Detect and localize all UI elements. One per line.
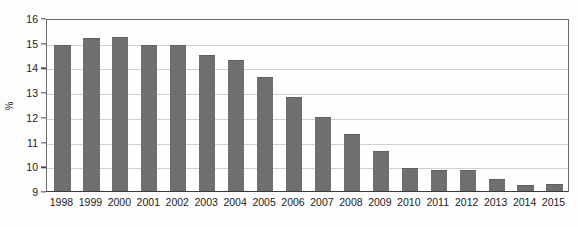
x-tick-label-2000: 2000 — [105, 196, 134, 208]
bar-2013 — [489, 179, 505, 191]
bar-2005 — [257, 77, 273, 191]
y-tick-label-15: 15 — [12, 38, 38, 50]
x-tick-label-2014: 2014 — [510, 196, 539, 208]
x-tick-label-2005: 2005 — [250, 196, 279, 208]
x-tick-label-2006: 2006 — [279, 196, 308, 208]
bar-2009 — [373, 151, 389, 191]
plot-area — [46, 19, 569, 192]
y-tick-label-11: 11 — [12, 137, 38, 149]
bar-2006 — [286, 97, 302, 191]
bar-2001 — [141, 45, 157, 191]
x-tick-label-1998: 1998 — [47, 196, 76, 208]
bar-2003 — [199, 55, 215, 191]
x-tick-label-2003: 2003 — [192, 196, 221, 208]
y-axis-title: % — [0, 98, 20, 114]
x-tick-label-2001: 2001 — [134, 196, 163, 208]
bar-2008 — [344, 134, 360, 191]
x-tick-label-2012: 2012 — [452, 196, 481, 208]
x-tick-label-2007: 2007 — [308, 196, 337, 208]
y-tick-label-9: 9 — [12, 186, 38, 198]
bar-chart-figure: % 161514131211109 1998199920002001200220… — [0, 0, 578, 227]
x-tick-label-1999: 1999 — [76, 196, 105, 208]
x-tick-label-2015: 2015 — [539, 196, 568, 208]
bar-2004 — [228, 60, 244, 191]
x-tick-label-2004: 2004 — [221, 196, 250, 208]
bar-1998 — [54, 45, 70, 191]
bar-2011 — [431, 170, 447, 191]
y-tick-label-10: 10 — [12, 161, 38, 173]
bar-2010 — [402, 168, 418, 191]
bar-2007 — [315, 117, 331, 191]
bar-2012 — [460, 170, 476, 191]
y-tick-label-14: 14 — [12, 62, 38, 74]
x-tick-label-2010: 2010 — [394, 196, 423, 208]
x-tick-label-2002: 2002 — [163, 196, 192, 208]
bar-1999 — [83, 38, 99, 191]
bar-2002 — [170, 45, 186, 191]
x-tick-label-2008: 2008 — [336, 196, 365, 208]
bar-2000 — [112, 37, 128, 191]
bar-2015 — [546, 184, 562, 191]
bar-2014 — [517, 185, 533, 191]
x-tick-label-2011: 2011 — [423, 196, 452, 208]
x-tick-label-2009: 2009 — [365, 196, 394, 208]
y-tick-label-16: 16 — [12, 13, 38, 25]
x-tick-label-2013: 2013 — [481, 196, 510, 208]
